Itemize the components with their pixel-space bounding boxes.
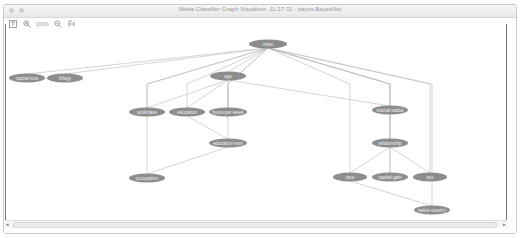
graph-node-marital-status[interactable]: marital-status [372,106,408,115]
graph-node-capital-gain[interactable]: capital-gain [372,173,408,182]
horizontal-scroll-thumb[interactable] [13,222,497,228]
edge-class-to-occupation [147,48,268,174]
graph-canvas[interactable]: classcapital-lossfnlwgtageworkclasseduca… [5,24,507,220]
edge-relationship-to-sex [390,147,430,173]
edge-age-to-education [187,80,228,108]
graph-node-hours-per-week[interactable]: hours-per-week [209,108,247,117]
edge-class-to-workclass [147,48,268,108]
graph-node-workclass[interactable]: workclass [129,108,165,117]
edge-age-to-workclass [147,80,228,108]
edge-education-num-to-occupation [147,147,228,174]
edge-relationship-to-race [350,147,390,173]
graph-node-education[interactable]: education [169,108,205,117]
graph-node-education-num[interactable]: education-num [209,139,247,148]
graph-node-relationship[interactable]: relationship [372,139,408,148]
graph-node-native-country[interactable]: native-country [414,206,450,215]
edge-class-to-fnlwgt [65,48,268,74]
edge-education-to-education-num [187,116,228,139]
edge-class-to-marital-status [268,48,390,106]
graph-node-occupation[interactable]: occupation [129,174,165,183]
edge-race-to-native-country [350,181,432,206]
graph-node-age[interactable]: age [210,72,246,81]
edge-class-to-capital-loss [27,48,268,74]
graph-edges [6,24,506,220]
edge-class-to-race [268,48,350,173]
graph-node-race[interactable]: race [333,173,367,182]
edge-age-to-marital-status [228,80,390,106]
edge-class-to-education-num [228,48,268,139]
scroll-right-arrow-icon[interactable]: ▸ [503,221,506,227]
scroll-left-arrow-icon[interactable]: ◂ [6,221,9,227]
graph-node-capital-loss[interactable]: capital-loss [9,74,45,83]
title-bar: Weka Classifier Graph Visualizer: 11:37:… [4,5,516,18]
horizontal-scrollbar[interactable]: ◂ ▸ [5,220,507,228]
graph-node-fnlwgt[interactable]: fnlwgt [47,74,83,83]
window-title: Weka Classifier Graph Visualizer: 11:37:… [4,6,516,12]
graph-node-class[interactable]: class [249,40,287,49]
graph-node-sex[interactable]: sex [413,173,447,182]
